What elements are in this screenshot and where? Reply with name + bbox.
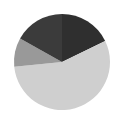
pie-chart-svg bbox=[0, 0, 124, 124]
pie-chart bbox=[0, 0, 124, 124]
pie-slices bbox=[14, 14, 110, 110]
